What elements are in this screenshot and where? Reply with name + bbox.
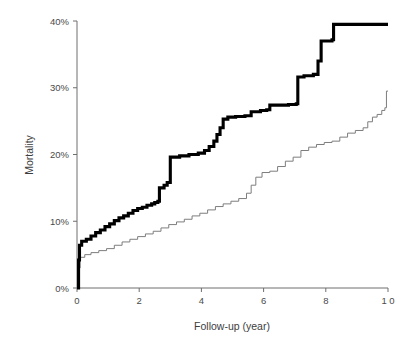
y-axis-title: Mortality bbox=[23, 134, 35, 174]
y-axis-ticks bbox=[73, 21, 77, 288]
y-axis-tick-labels: 0%10%20%30%40% bbox=[50, 16, 70, 294]
lower-curve-path bbox=[77, 91, 388, 288]
x-axis-tick-labels: 024681 0 bbox=[74, 295, 394, 306]
x-tick-label: 2 bbox=[137, 295, 142, 306]
y-tick-label: 30% bbox=[50, 82, 70, 93]
y-tick-label: 20% bbox=[50, 149, 70, 160]
x-tick-label: 8 bbox=[323, 295, 328, 306]
x-axis-title: Follow-up (year) bbox=[194, 320, 270, 332]
x-tick-label: 4 bbox=[199, 295, 204, 306]
x-tick-label: 1 0 bbox=[381, 295, 394, 306]
mortality-followup-chart: 0%10%20%30%40% 024681 0 Follow-up (year)… bbox=[0, 0, 410, 341]
x-tick-label: 6 bbox=[261, 295, 266, 306]
data-series-group bbox=[77, 24, 388, 288]
chart-canvas: 0%10%20%30%40% 024681 0 Follow-up (year)… bbox=[0, 0, 410, 341]
x-axis-ticks bbox=[77, 288, 388, 292]
y-axis: 0%10%20%30%40% bbox=[50, 16, 77, 294]
x-axis: 024681 0 bbox=[74, 288, 394, 306]
y-tick-label: 40% bbox=[50, 16, 70, 27]
upper-curve-path bbox=[77, 24, 388, 288]
y-tick-label: 0% bbox=[55, 283, 69, 294]
x-tick-label: 0 bbox=[74, 295, 79, 306]
y-tick-label: 10% bbox=[50, 216, 70, 227]
